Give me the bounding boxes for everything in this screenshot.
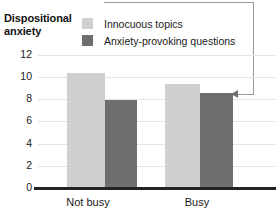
bar-not-busy-anxiety-provoking-questions (105, 100, 137, 188)
y-axis-labels: 12 10 8 6 4 2 0 (8, 55, 32, 188)
legend-swatch-icon (82, 35, 93, 46)
plot-area (38, 55, 276, 188)
gridline (38, 55, 276, 56)
callout-leader-horizontal (104, 2, 254, 3)
x-tick-label-busy: Busy (162, 196, 232, 208)
page-title: Dispositional anxiety (4, 12, 82, 38)
bar-busy-innocuous-topics (165, 84, 200, 188)
legend-label: Anxiety-provoking questions (104, 35, 235, 47)
bar-not-busy-innocuous-topics (67, 73, 105, 188)
chart-legend: Innocuous topics Anxiety-provoking quest… (82, 16, 235, 50)
y-tick-label: 2 (10, 159, 32, 171)
y-tick-label: 6 (10, 114, 32, 126)
legend-swatch-icon (82, 18, 93, 29)
bar-chart-figure: Dispositional anxiety Innocuous topics A… (0, 0, 280, 222)
axis-title-line-1: Dispositional (4, 12, 82, 25)
y-tick-label: 10 (10, 70, 32, 82)
y-tick-label: 4 (10, 137, 32, 149)
legend-item-innocuous-topics: Innocuous topics (82, 16, 235, 31)
y-tick-label: 0 (10, 181, 32, 193)
y-tick-label: 12 (10, 48, 32, 60)
bar-busy-anxiety-provoking-questions (200, 93, 233, 188)
y-tick-label: 8 (10, 92, 32, 104)
x-axis-line (34, 187, 276, 190)
axis-title-line-2: anxiety (4, 25, 82, 38)
legend-label: Innocuous topics (104, 18, 183, 30)
x-tick-label-not-busy: Not busy (50, 196, 126, 208)
legend-item-anxiety-provoking-questions: Anxiety-provoking questions (82, 33, 235, 48)
